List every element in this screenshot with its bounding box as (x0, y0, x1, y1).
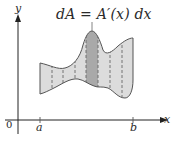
origin-label: 0 (6, 120, 12, 130)
x-axis-label: x (164, 114, 170, 125)
tick-label-b: b (130, 122, 137, 133)
y-axis-label: y (15, 3, 21, 14)
area-element-diagram: dA = A′(x) dx y x 0 a b (0, 0, 174, 146)
tick-label-a: a (36, 122, 43, 133)
formula-label: dA = A′(x) dx (56, 7, 152, 21)
y-axis-arrow-icon (15, 14, 21, 22)
